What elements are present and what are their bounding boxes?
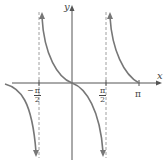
curve-arrow-icon [100, 150, 106, 157]
tick-half-pi: π2 [99, 87, 106, 104]
chart-canvas [0, 0, 168, 164]
curve-arrow-icon [107, 12, 113, 19]
curve-branch-3 [110, 17, 139, 83]
tick-neg-half-pi: −π2 [27, 87, 41, 104]
curve-arrow-icon [33, 150, 39, 157]
y-axis-arrow-icon [70, 5, 75, 11]
tick-pi: π [135, 90, 141, 98]
x-axis-label: x [157, 70, 163, 81]
curve-arrow-icon [39, 12, 45, 19]
y-axis-label: y [64, 1, 70, 12]
x-axis-arrow-icon [156, 81, 162, 86]
